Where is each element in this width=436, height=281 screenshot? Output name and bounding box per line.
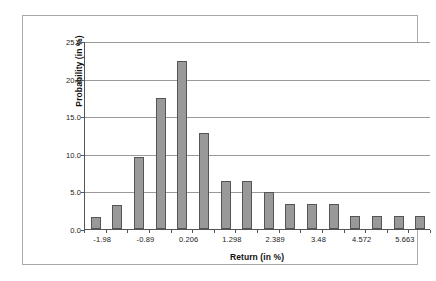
bar	[350, 216, 360, 229]
x-tick-mark	[171, 230, 172, 233]
y-axis-tick-labels: 0.05.010.015.020.025.0	[53, 42, 81, 230]
y-tick-mark	[81, 80, 84, 81]
x-tick-mark	[430, 230, 431, 233]
x-tick-mark	[279, 230, 280, 233]
y-tick-label: 0.0	[70, 226, 81, 235]
bar	[91, 217, 101, 229]
x-tick-label: 5.663	[395, 235, 414, 244]
y-tick-mark	[81, 42, 84, 43]
bar	[415, 216, 425, 229]
plot-area	[84, 42, 430, 230]
y-tick-label: 25.0	[66, 38, 81, 47]
x-tick-mark	[106, 230, 107, 233]
bar	[199, 133, 209, 229]
x-tick-label: 3.48	[311, 235, 326, 244]
x-tick-mark	[214, 230, 215, 233]
x-tick-mark	[192, 230, 193, 233]
y-tick-label: 20.0	[66, 75, 81, 84]
x-tick-label: -0.89	[137, 235, 155, 244]
x-tick-mark	[387, 230, 388, 233]
bar-series	[85, 42, 430, 229]
histogram-figure: Probability (in %) 0.05.010.015.020.025.…	[0, 0, 436, 281]
bar	[264, 192, 274, 229]
x-tick-mark	[84, 230, 85, 233]
x-tick-label: 2.389	[266, 235, 285, 244]
x-tick-label: 4.572	[352, 235, 371, 244]
x-axis-title: Return (in %)	[84, 252, 430, 262]
y-tick-mark	[81, 192, 84, 193]
x-tick-label: 1.298	[222, 235, 241, 244]
bar	[372, 216, 382, 229]
y-tick-label: 15.0	[66, 113, 81, 122]
x-tick-mark	[365, 230, 366, 233]
x-tick-mark	[149, 230, 150, 233]
bar	[307, 204, 317, 229]
bar	[112, 205, 122, 229]
y-tick-mark	[81, 155, 84, 156]
y-tick-label: 10.0	[66, 150, 81, 159]
y-tick-mark	[81, 117, 84, 118]
bar	[134, 157, 144, 229]
bar	[221, 181, 231, 229]
bar	[394, 216, 404, 229]
x-tick-mark	[408, 230, 409, 233]
x-tick-mark	[300, 230, 301, 233]
y-tick-label: 5.0	[70, 188, 81, 197]
bar	[285, 204, 295, 229]
bar	[329, 204, 339, 229]
x-tick-mark	[257, 230, 258, 233]
x-axis-tick-labels: -1.98-0.890.2061.2982.3893.484.5725.663	[84, 230, 430, 246]
bar	[177, 61, 187, 229]
bar	[242, 181, 252, 229]
x-tick-label: 0.206	[179, 235, 198, 244]
x-tick-label: -1.98	[93, 235, 111, 244]
x-tick-mark	[344, 230, 345, 233]
x-tick-mark	[235, 230, 236, 233]
x-tick-mark	[322, 230, 323, 233]
chart-frame: Probability (in %) 0.05.010.015.020.025.…	[22, 15, 418, 265]
bar	[156, 98, 166, 229]
x-tick-mark	[127, 230, 128, 233]
